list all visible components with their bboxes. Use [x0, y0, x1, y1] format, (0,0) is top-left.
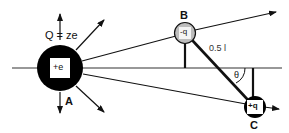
field-line-lower-right: [76, 86, 104, 112]
line-c-extended-arrow: [264, 107, 279, 109]
line-a-to-c: [83, 74, 246, 104]
line-b-extended-arrow: [195, 12, 276, 30]
charge-a-total-label: Q = ze: [45, 30, 78, 41]
charge-a-inner-label: +e: [53, 63, 63, 72]
line-a-to-b: [82, 36, 176, 61]
charge-a-label: A: [65, 96, 73, 107]
charge-b-inner-label: -q: [180, 28, 187, 36]
charge-diagram: [0, 0, 289, 133]
charge-c-inner-label: +q: [248, 102, 258, 110]
charge-b-label: B: [180, 10, 188, 21]
angle-theta-label: θ: [234, 71, 239, 80]
rod-length-label: 0.5 l: [209, 44, 226, 53]
charge-c-label: C: [250, 120, 258, 131]
field-line-upper-right: [76, 20, 104, 50]
